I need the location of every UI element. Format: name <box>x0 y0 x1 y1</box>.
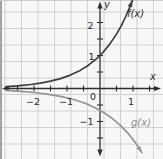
grid-lines <box>0 0 163 159</box>
x-axis-right-arrow <box>154 86 161 91</box>
curve-f-arrow <box>128 1 133 8</box>
curve-f <box>6 1 132 87</box>
y-axis-top-arrow <box>97 2 102 9</box>
y-axis-bottom-arrow <box>97 150 102 157</box>
graph-canvas <box>0 0 163 159</box>
axis-ticks <box>18 23 150 139</box>
axes <box>4 5 158 153</box>
curve-g <box>6 90 142 152</box>
function-graph: y x f(x) g(x) −2 −1 0 1 2 1 −1 <box>0 0 163 159</box>
